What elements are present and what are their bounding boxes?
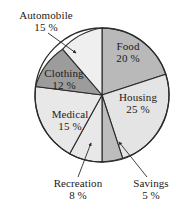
- pie-label-housing-value: 25 %: [109, 104, 167, 116]
- pie-label-savings-value: 5 %: [125, 190, 177, 202]
- pie-label-medical: Medical 15 %: [42, 109, 98, 133]
- pie-label-housing: Housing 25 %: [109, 92, 167, 116]
- pie-label-savings: Savings 5 %: [125, 178, 177, 202]
- pie-label-automobile: Automobile 15 %: [4, 10, 88, 34]
- pie-label-automobile-value: 15 %: [4, 22, 88, 34]
- pie-label-medical-value: 15 %: [42, 121, 98, 133]
- pie-label-food: Food 20 %: [106, 41, 150, 65]
- pie-label-clothing: Clothing 12 %: [35, 68, 93, 92]
- pie-label-food-value: 20 %: [106, 53, 150, 65]
- pie-chart-figure: Automobile 15 % Food 20 % Housing 25 % C…: [0, 0, 185, 210]
- pie-label-recreation-value: 8 %: [40, 190, 116, 202]
- pie-label-recreation: Recreation 8 %: [40, 178, 116, 202]
- pie-label-clothing-value: 12 %: [35, 80, 93, 92]
